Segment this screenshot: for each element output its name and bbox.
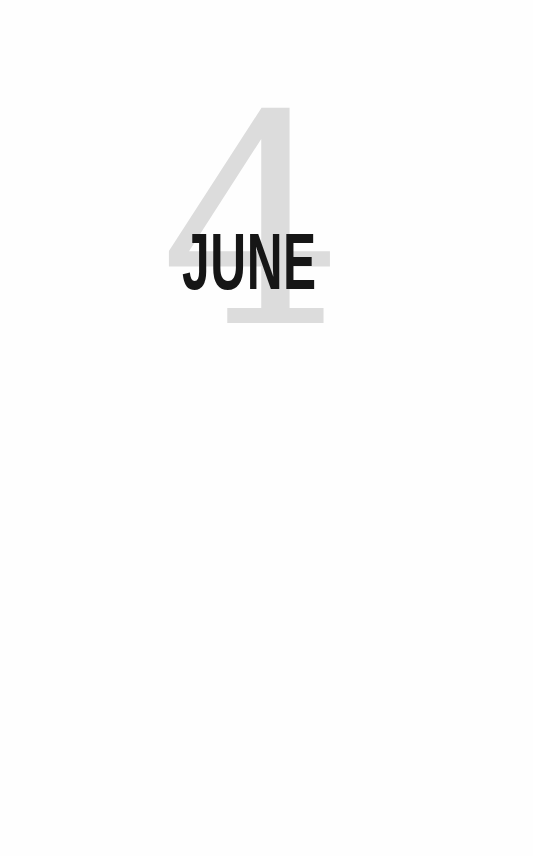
page: 4 JUNE — [0, 0, 533, 856]
chapter-title: JUNE — [182, 222, 317, 302]
